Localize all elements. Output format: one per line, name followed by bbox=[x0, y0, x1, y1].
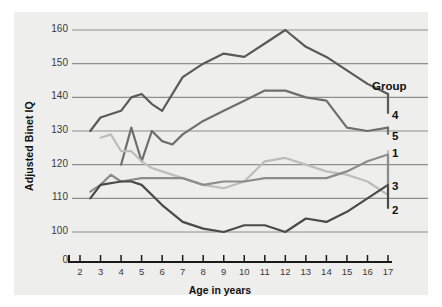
x-tick-label: 7 bbox=[173, 266, 193, 277]
x-tick-label: 3 bbox=[91, 266, 111, 277]
y-axis-origin-label: 0 bbox=[34, 254, 68, 265]
x-tick-label: 9 bbox=[214, 266, 234, 277]
x-tick-label: 11 bbox=[255, 266, 275, 277]
series-line-3 bbox=[90, 155, 388, 192]
legend-item-4: 4 bbox=[392, 109, 398, 121]
x-axis-title: Age in years bbox=[140, 284, 300, 296]
x-tick-label: 2 bbox=[70, 266, 90, 277]
x-tick-label: 5 bbox=[132, 266, 152, 277]
x-tick-label: 14 bbox=[316, 266, 336, 277]
series-line-5 bbox=[121, 91, 388, 165]
x-axis-group bbox=[68, 255, 392, 262]
gridlines-group bbox=[72, 30, 428, 232]
legend-item-5: 5 bbox=[392, 130, 398, 142]
y-tick-label: 160 bbox=[34, 23, 68, 34]
x-tick-label: 6 bbox=[152, 266, 172, 277]
y-tick-label: 130 bbox=[34, 124, 68, 135]
y-tick-label: 100 bbox=[34, 225, 68, 236]
x-tick-label: 13 bbox=[296, 266, 316, 277]
x-tick-label: 10 bbox=[234, 266, 254, 277]
x-tick-label: 8 bbox=[193, 266, 213, 277]
x-tick-label: 12 bbox=[275, 266, 295, 277]
legend-item-2: 2 bbox=[392, 204, 398, 216]
y-tick-label: 150 bbox=[34, 57, 68, 68]
legend-item-3: 3 bbox=[392, 180, 398, 192]
y-tick-label: 140 bbox=[34, 90, 68, 101]
chart-figure: Adjusted Binet IQ Age in years 100110120… bbox=[0, 0, 442, 307]
series-line-2 bbox=[90, 182, 388, 233]
y-tick-label: 110 bbox=[34, 191, 68, 202]
y-tick-label: 120 bbox=[34, 158, 68, 169]
legend-item-1: 1 bbox=[392, 147, 398, 159]
series-line-4 bbox=[90, 30, 388, 131]
x-tick-label: 17 bbox=[378, 266, 398, 277]
x-tick-label: 4 bbox=[111, 266, 131, 277]
x-tick-label: 16 bbox=[357, 266, 377, 277]
legend-title: Group bbox=[372, 80, 407, 92]
x-tick-label: 15 bbox=[337, 266, 357, 277]
